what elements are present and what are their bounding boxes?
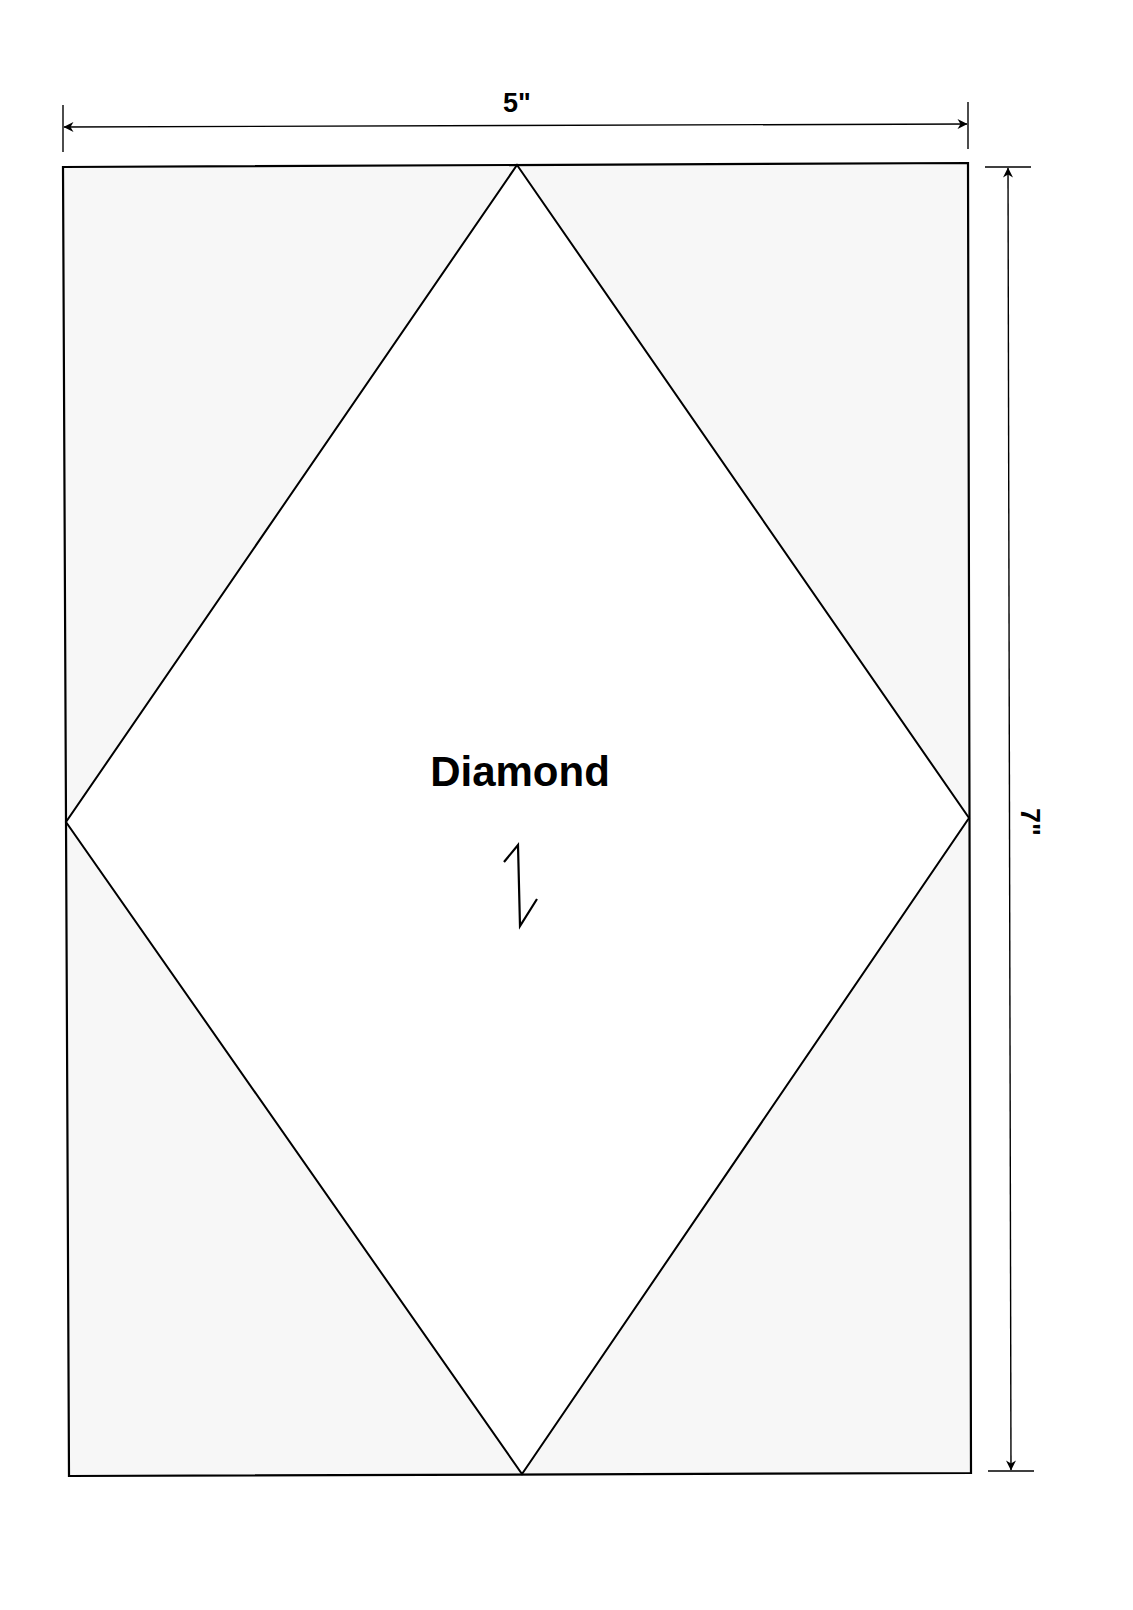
height-arrow-line (1008, 168, 1011, 1470)
height-dimension: 7" (985, 167, 1045, 1471)
width-label: 5" (503, 88, 531, 118)
shape-label: Diamond (430, 748, 610, 795)
width-dimension: 5" (63, 88, 968, 152)
height-label: 7" (1015, 808, 1045, 836)
diamond-template-diagram: 5" 7" Diamond (0, 0, 1133, 1610)
width-arrow-line (64, 124, 967, 127)
